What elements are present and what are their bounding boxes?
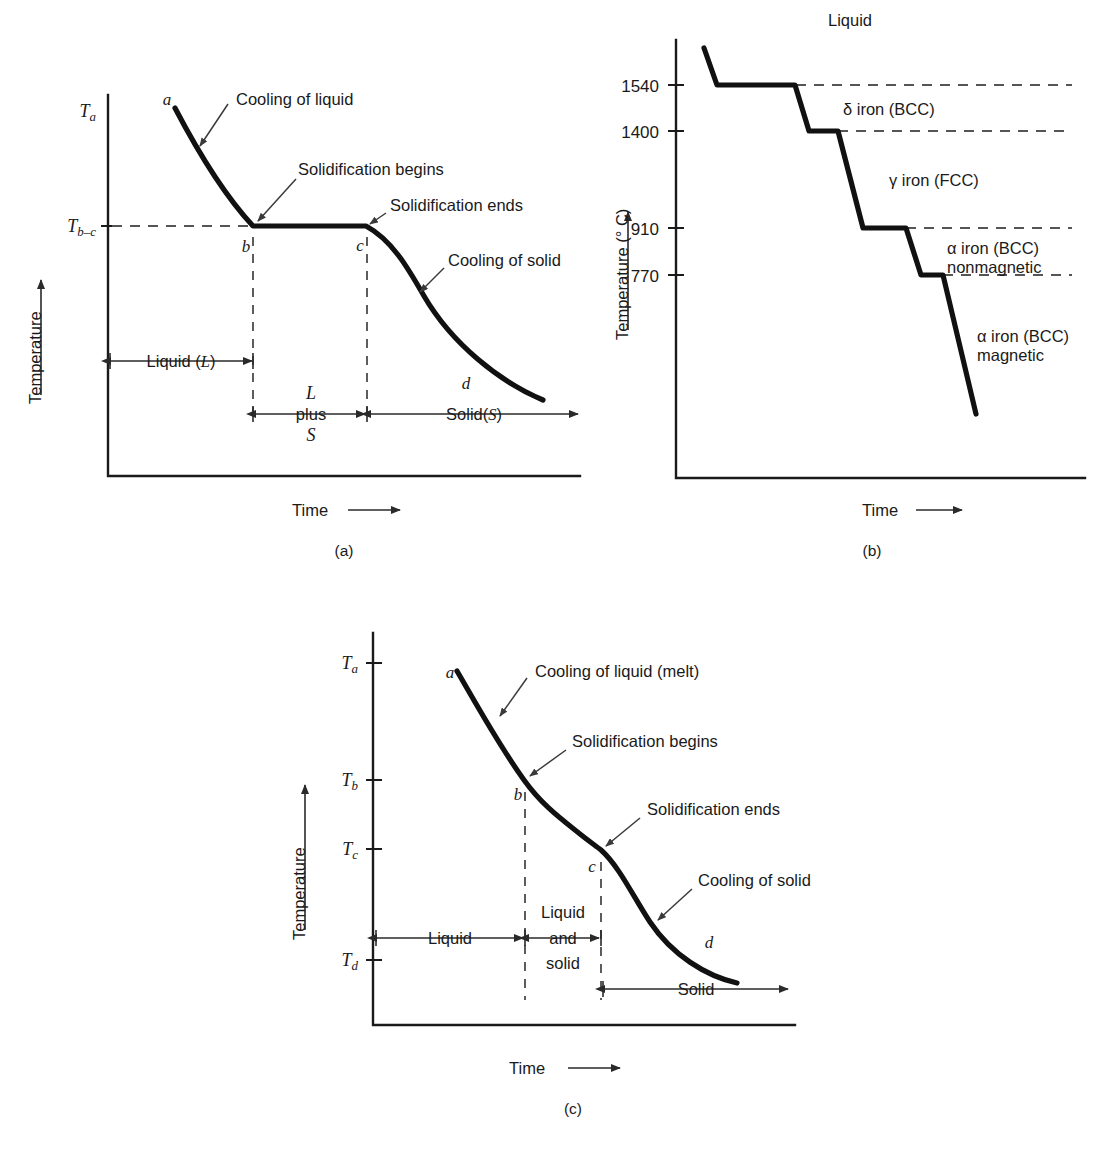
panel-b: Liquid 1540 1400 910 770 δ iron (BCC) γ … <box>613 11 1085 559</box>
panel-c-region-label-and: and <box>549 929 577 947</box>
panel-c-ytick-label-tc: Tc <box>342 839 358 862</box>
panel-a-region-label-solid: Solid(S) <box>446 405 502 424</box>
panel-c-region-label-liquid: Liquid <box>428 929 472 947</box>
panel-c-axes <box>373 633 795 1025</box>
panel-c-xaxis-label: Time <box>509 1059 545 1077</box>
panel-a-region-label-s: S <box>307 425 316 445</box>
panel-a-leader-cooling-liquid <box>200 104 228 146</box>
panel-c-annotation-solidification-ends: Solidification ends <box>647 800 780 818</box>
panel-a-point-label-d: d <box>462 374 471 393</box>
panel-c-point-label-d: d <box>705 933 714 952</box>
panel-c-region-label-liquid-top: Liquid <box>541 903 585 921</box>
panel-a-region-label-liquid: Liquid (L) <box>147 352 216 371</box>
panel-b-phase-label-nonmagnetic: nonmagnetic <box>947 258 1041 276</box>
panel-c-region-label-solid-lower: solid <box>546 954 580 972</box>
panel-a-yaxis-label: Temperature <box>26 311 44 404</box>
panel-a-annotation-cooling-of-solid: Cooling of solid <box>448 251 561 269</box>
panel-c-point-label-b: b <box>514 785 523 804</box>
panel-a-leader-solidification-begins <box>258 179 296 221</box>
panel-b-title: Liquid <box>828 11 872 29</box>
panel-c-annotation-solidification-begins: Solidification begins <box>572 732 718 750</box>
panel-a-region-label-l: L <box>305 383 316 403</box>
panel-b-phase-label-alpha-iron-magnetic: α iron (BCC) <box>977 327 1069 345</box>
cooling-curves-figure: Temperature Time Ta Tb–c a b c d Cooling… <box>0 0 1113 1149</box>
panel-c-point-label-a: a <box>446 663 455 682</box>
panel-a-xaxis-label: Time <box>292 501 328 519</box>
panel-a-region-label-plus: plus <box>296 405 326 423</box>
panel-c-leader-cooling-solid <box>658 889 692 920</box>
panel-c-leader-cooling-liquid <box>500 678 527 716</box>
panel-b-phase-label-delta-iron: δ iron (BCC) <box>843 100 935 118</box>
panel-a-point-label-b: b <box>242 237 251 256</box>
panel-a: Temperature Time Ta Tb–c a b c d Cooling… <box>26 90 580 559</box>
panel-b-xaxis-label: Time <box>862 501 898 519</box>
panel-b-ytick-label-910: 910 <box>631 220 659 239</box>
panel-a-annotation-solidification-begins: Solidification begins <box>298 160 444 178</box>
panel-a-ytick-label-ta: Ta <box>80 101 97 124</box>
panel-c-cooling-curve <box>457 671 737 983</box>
panel-c-caption: (c) <box>564 1100 582 1117</box>
panel-c-point-label-c: c <box>588 857 596 876</box>
panel-b-ytick-label-770: 770 <box>631 267 659 286</box>
panel-c-ytick-label-tb: Tb <box>342 770 359 793</box>
panel-a-ytick-label-tbc: Tb–c <box>67 216 96 239</box>
panel-b-cooling-curve <box>704 48 976 414</box>
figure-root: Temperature Time Ta Tb–c a b c d Cooling… <box>0 0 1113 1149</box>
panel-b-ytick-label-1400: 1400 <box>621 123 659 142</box>
panel-c-yaxis-label: Temperature <box>290 847 308 940</box>
panel-a-annotation-solidification-ends: Solidification ends <box>390 196 523 214</box>
panel-c-ytick-label-td: Td <box>342 950 359 973</box>
panel-a-leader-cooling-solid <box>420 268 444 292</box>
panel-c-region-label-solid: Solid <box>678 980 715 998</box>
panel-b-caption: (b) <box>863 542 882 559</box>
panel-a-annotation-cooling-of-liquid: Cooling of liquid <box>236 90 353 108</box>
panel-b-phase-label-magnetic: magnetic <box>977 346 1044 364</box>
panel-c-leader-solidification-begins <box>530 750 566 776</box>
panel-c-annotation-cooling-of-liquid-melt: Cooling of liquid (melt) <box>535 662 699 680</box>
panel-b-phase-label-gamma-iron: γ iron (FCC) <box>889 171 979 189</box>
panel-b-yaxis-label: Temperature (° C) <box>613 209 631 340</box>
panel-b-phase-label-alpha-iron-nonmagnetic: α iron (BCC) <box>947 239 1039 257</box>
panel-c: Temperature Time Ta Tb Tc Td a b c d Coo… <box>290 633 811 1117</box>
panel-a-leader-solidification-ends <box>370 213 386 224</box>
panel-c-leader-solidification-ends <box>606 818 640 846</box>
panel-b-ytick-label-1540: 1540 <box>621 77 659 96</box>
panel-a-caption: (a) <box>335 542 354 559</box>
panel-a-point-label-c: c <box>356 236 364 255</box>
panel-c-ytick-label-ta: Ta <box>342 653 359 676</box>
panel-c-annotation-cooling-of-solid: Cooling of solid <box>698 871 811 889</box>
panel-a-axes <box>108 95 580 476</box>
panel-a-point-label-a: a <box>163 90 172 109</box>
